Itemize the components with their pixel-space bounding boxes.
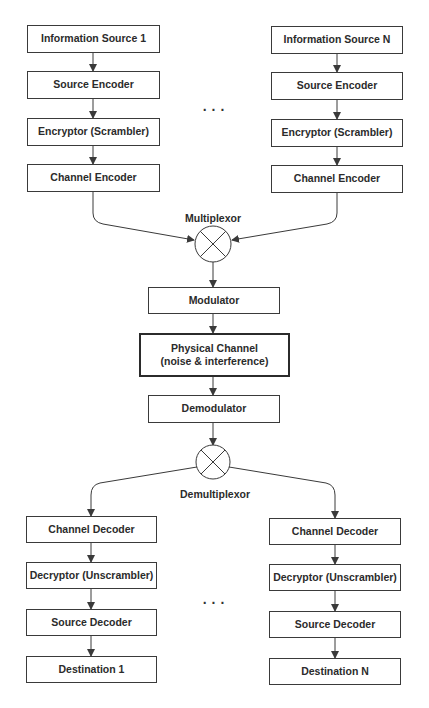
info-source-1-box: Information Source 1 bbox=[27, 25, 160, 53]
modulator-box: Modulator bbox=[148, 287, 280, 314]
decryptor-n-box: Decryptor (Unscrambler) bbox=[269, 564, 401, 591]
source-encoder-1-box: Source Encoder bbox=[27, 71, 160, 99]
source-encoder-n-box: Source Encoder bbox=[271, 72, 403, 100]
physical-channel-line1: Physical Channel bbox=[171, 342, 258, 355]
ellipsis-top: ... bbox=[203, 98, 230, 114]
destination-1-box: Destination 1 bbox=[26, 656, 157, 683]
destination-n-box: Destination N bbox=[269, 658, 401, 685]
decryptor-1-box: Decryptor (Unscrambler) bbox=[26, 562, 157, 589]
demultiplexor-symbol bbox=[196, 445, 230, 479]
physical-channel-line2: (noise & interference) bbox=[161, 355, 269, 368]
multiplexor-label: Multiplexor bbox=[185, 212, 241, 224]
channel-decoder-n-box: Channel Decoder bbox=[269, 518, 401, 545]
multiplexor-symbol bbox=[195, 226, 231, 262]
source-decoder-n-box: Source Decoder bbox=[269, 611, 401, 638]
channel-decoder-1-box: Channel Decoder bbox=[26, 516, 157, 543]
encryptor-1-box: Encryptor (Scrambler) bbox=[27, 118, 160, 146]
demodulator-box: Demodulator bbox=[148, 395, 280, 423]
channel-encoder-n-box: Channel Encoder bbox=[271, 165, 403, 193]
demultiplexor-label: Demultiplexor bbox=[180, 488, 250, 500]
source-decoder-1-box: Source Decoder bbox=[26, 609, 157, 636]
channel-encoder-1-box: Channel Encoder bbox=[27, 164, 160, 192]
ellipsis-bottom: ... bbox=[203, 591, 230, 607]
physical-channel-box: Physical Channel (noise & interference) bbox=[139, 333, 290, 377]
info-source-n-box: Information Source N bbox=[271, 26, 403, 54]
encryptor-n-box: Encryptor (Scrambler) bbox=[271, 119, 403, 147]
